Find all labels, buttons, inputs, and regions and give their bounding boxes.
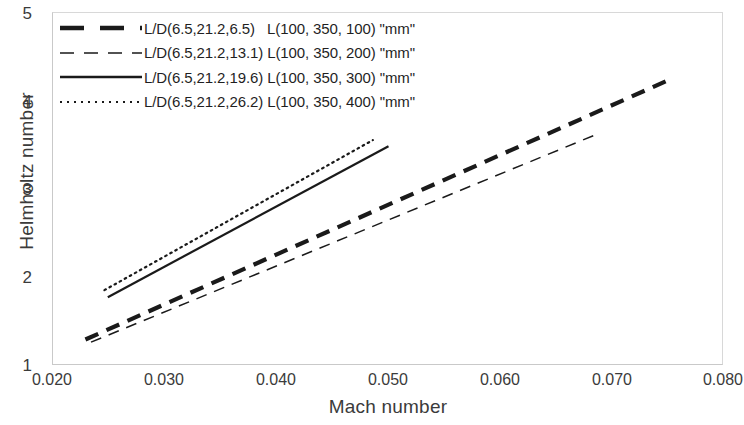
legend-swatch-thin-dashed-icon [58,44,144,62]
x-tick-label-0040: 0.040 [231,372,321,388]
x-tick-label-0030: 0.030 [119,372,209,388]
y-axis-title: Helmholtz number [16,56,38,286]
y-tick-label-3: 3 [0,181,32,198]
legend-swatch-thick-dashed-icon [58,19,144,37]
x-tick-label-0080: 0.080 [678,372,744,388]
legend-entry-0: L/D(6.5,21.2,6.5) L(100, 350, 100) "mm" [58,16,424,41]
legend: L/D(6.5,21.2,6.5) L(100, 350, 100) "mm" … [58,14,424,118]
helmholtz-vs-mach-chart: Helmholtz number 5 4 3 2 1 0.020 0.030 0… [0,0,744,425]
x-axis-title: Mach number [52,396,724,418]
x-tick-label-0020: 0.020 [7,372,97,388]
legend-label-3: L/D(6.5,21.2,26.2) L(100, 350, 400) "mm" [144,93,415,110]
legend-label-0: L/D(6.5,21.2,6.5) L(100, 350, 100) "mm" [144,20,415,37]
y-tick-label-5: 5 [0,5,32,22]
legend-label-1: L/D(6.5,21.2,13.1) L(100, 350, 200) "mm" [144,44,415,61]
series-line-1 [91,133,600,342]
x-tick-label-0070: 0.070 [567,372,657,388]
legend-label-2: L/D(6.5,21.2,19.6) L(100, 350, 300) "mm" [144,69,415,86]
legend-entry-3: L/D(6.5,21.2,26.2) L(100, 350, 400) "mm" [58,90,424,115]
legend-swatch-dotted-icon [58,93,144,111]
y-tick-label-2: 2 [0,269,32,286]
y-tick-label-4: 4 [0,93,32,110]
x-tick-label-0050: 0.050 [343,372,433,388]
x-tick-label-0060: 0.060 [455,372,545,388]
legend-swatch-solid-icon [58,68,144,86]
legend-entry-1: L/D(6.5,21.2,13.1) L(100, 350, 200) "mm" [58,41,424,66]
legend-entry-2: L/D(6.5,21.2,19.6) L(100, 350, 300) "mm" [58,65,424,90]
series-line-3 [104,140,372,290]
